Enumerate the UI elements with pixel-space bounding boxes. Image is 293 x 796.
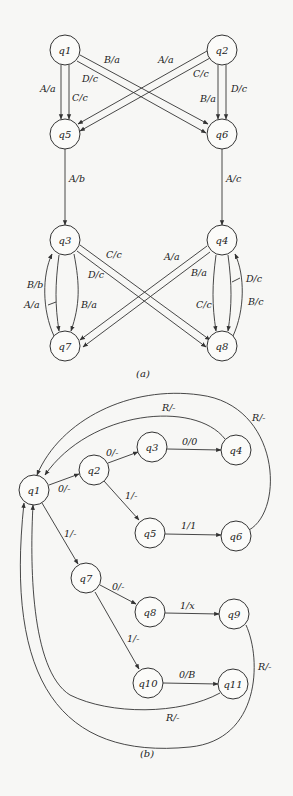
edge-label: C/c — [72, 92, 88, 103]
svg-text:q10: q10 — [138, 678, 158, 689]
edge-label: D/c — [230, 83, 248, 94]
svg-text:q7: q7 — [59, 341, 72, 352]
state-node: q10 — [133, 668, 163, 698]
svg-text:q5: q5 — [144, 528, 157, 539]
svg-text:q6: q6 — [216, 129, 229, 140]
edge-label: R/- — [165, 712, 180, 723]
state-node: q1 — [19, 475, 49, 505]
state-node: q8 — [135, 597, 165, 627]
edge-label: C/c — [196, 299, 212, 310]
svg-text:q3: q3 — [59, 235, 72, 246]
state-node: q8 — [207, 331, 237, 361]
edge-label: 1/- — [125, 490, 137, 501]
edge-label: 1/- — [64, 528, 76, 539]
svg-text:q8: q8 — [216, 341, 229, 352]
edge-q7-q3-B — [45, 254, 54, 336]
edge-label: A/a — [23, 299, 40, 310]
svg-text:q2: q2 — [216, 45, 229, 56]
edge-label: A/c — [225, 173, 242, 184]
edge-label: 0/- — [106, 447, 118, 458]
edge-label: D/c — [245, 273, 263, 284]
svg-text:q7: q7 — [80, 573, 93, 584]
edge-q1-q6-B — [80, 55, 208, 124]
edge-q8-q4-B — [233, 254, 242, 336]
edge-label: B/a — [103, 54, 120, 65]
edge-label: B/c — [247, 296, 264, 307]
state-node: q6 — [221, 521, 251, 551]
edge-label: A/a — [39, 83, 56, 94]
state-diagrams: A/a C/c B/a D/c A/a C/c B/a D/c A/b A/c … — [0, 0, 293, 796]
state-node: q4 — [207, 225, 237, 255]
edge-label: A/a — [163, 251, 180, 262]
state-node: q9 — [219, 599, 249, 629]
label-pointer — [232, 278, 240, 282]
state-node: q2 — [79, 455, 109, 485]
edge-q4-q8-C — [213, 255, 216, 331]
caption-b: (b) — [140, 748, 154, 759]
state-node: q5 — [50, 119, 80, 149]
svg-text:q3: q3 — [146, 442, 159, 453]
edge-label: C/c — [193, 68, 209, 79]
edge-q10-q11 — [163, 683, 218, 684]
edge-label: 0/- — [112, 581, 124, 592]
edge-q7-q10 — [95, 592, 139, 669]
state-node: q5 — [135, 518, 165, 548]
svg-text:q2: q2 — [88, 465, 101, 476]
edge-q3-q7-B — [71, 254, 78, 331]
state-node: q6 — [207, 119, 237, 149]
diagram-b: 0/- 0/- 0/0 1/- 1/1 1/- 0/- 1/x 1/- 0/B … — [19, 393, 272, 759]
state-node: q4 — [221, 435, 251, 465]
svg-text:q6: q6 — [230, 531, 243, 542]
state-node: q7 — [50, 331, 80, 361]
svg-text:q11: q11 — [223, 679, 242, 690]
svg-text:q1: q1 — [28, 485, 41, 496]
edge-q5-q6 — [165, 534, 221, 535]
state-node: q7 — [71, 563, 101, 593]
edge-label: C/c — [106, 249, 122, 260]
edge-label: R/- — [161, 402, 176, 413]
edge-q4-q1 — [45, 416, 225, 475]
edge-label: R/- — [257, 661, 272, 672]
edge-label: 1/- — [127, 633, 139, 644]
edge-label: 0/- — [58, 483, 70, 494]
state-node: q3 — [137, 432, 167, 462]
edge-label: R/- — [251, 412, 266, 423]
edge-label: B/a — [190, 267, 207, 278]
edge-q3-q4 — [167, 449, 221, 450]
edge-label: B/b — [26, 279, 43, 290]
svg-text:q4: q4 — [230, 445, 243, 456]
svg-text:q8: q8 — [144, 607, 157, 618]
edge-label: 1/1 — [181, 520, 196, 531]
edge-q2-q5-C — [80, 58, 210, 131]
edge-q4-q8-D — [228, 255, 231, 331]
state-node: q2 — [207, 35, 237, 65]
edge-label: D/c — [87, 269, 105, 280]
edge-q8-q9 — [165, 613, 219, 614]
edge-label: B/a — [199, 93, 216, 104]
state-node: q3 — [50, 225, 80, 255]
edge-label: D/c — [81, 73, 99, 84]
edge-q4-q7-A — [80, 246, 207, 340]
edge-label: A/a — [157, 54, 174, 65]
caption-a: (a) — [136, 368, 150, 379]
svg-text:q1: q1 — [59, 45, 72, 56]
label-pointer — [48, 302, 56, 305]
edge-label: 0/0 — [182, 436, 197, 447]
svg-text:q9: q9 — [228, 609, 241, 620]
edge-label: 1/x — [180, 600, 195, 611]
state-node: q1 — [50, 35, 80, 65]
edge-label: B/a — [80, 299, 97, 310]
diagram-a: A/a C/c B/a D/c A/a C/c B/a D/c A/b A/c … — [23, 35, 264, 379]
state-node: q11 — [218, 669, 248, 699]
edge-label: 0/B — [179, 669, 195, 680]
svg-text:q5: q5 — [59, 129, 72, 140]
svg-text:q4: q4 — [216, 235, 229, 246]
edge-q3-q7-A — [56, 255, 59, 331]
edge-label: A/b — [68, 173, 85, 184]
